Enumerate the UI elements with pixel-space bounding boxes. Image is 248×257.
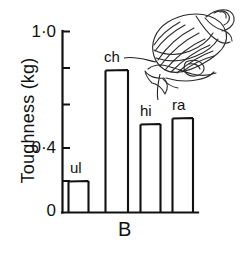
bar-ra (173, 118, 194, 212)
snail-foot-front (145, 71, 167, 94)
snail-growth-line-1 (158, 28, 194, 60)
snail-spire-1 (206, 10, 234, 31)
chart-canvas (0, 0, 248, 257)
axes-group (62, 31, 198, 213)
snail-apex (220, 12, 226, 18)
bar-ul (69, 181, 89, 212)
leader-lines-group (124, 57, 160, 100)
snail-foot-top (148, 65, 216, 75)
snail-growth-line-7 (154, 22, 180, 45)
leader-line-ch (124, 57, 156, 62)
figure-panel-b: Toughness (kg) 1·0 0·4 0 ul ch hi ra B (0, 0, 248, 257)
bars-group (69, 70, 194, 212)
bar-hi (141, 124, 161, 212)
bar-ch (106, 70, 129, 212)
snail-spire-2 (214, 11, 229, 25)
snail-spiral-ridge-2 (154, 33, 213, 54)
